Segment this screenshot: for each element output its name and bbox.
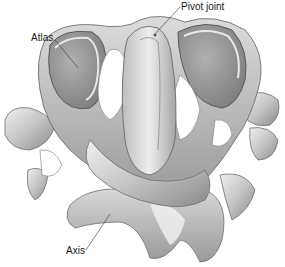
pivot-joint-label: Pivot joint — [181, 2, 224, 12]
axis-label: Axis — [66, 246, 85, 256]
dens-pivot — [122, 26, 176, 175]
atlas-label: Atlas — [31, 33, 53, 43]
